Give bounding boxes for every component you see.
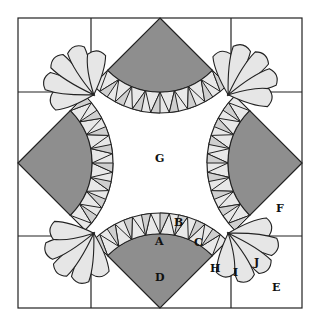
fan-left — [18, 96, 113, 230]
label-a: A — [154, 235, 164, 248]
fan-center-wedge — [18, 111, 92, 216]
label-h: H — [210, 262, 220, 275]
label-d: D — [155, 271, 165, 284]
petal-cluster-top-right — [213, 45, 277, 107]
fan-top — [93, 18, 227, 113]
fan-right — [207, 96, 302, 230]
label-j: J — [253, 256, 259, 269]
petal-cluster-bottom-right — [216, 218, 278, 282]
petal-cluster-bottom-left — [45, 221, 109, 283]
fan-center-wedge — [228, 111, 302, 216]
label-c: C — [194, 236, 203, 249]
petal-cluster-top-left — [44, 46, 106, 110]
label-i: I — [233, 266, 238, 279]
label-e: E — [272, 281, 280, 294]
fan-bottom — [93, 213, 227, 308]
label-g: G — [155, 152, 164, 165]
label-f: F — [276, 202, 284, 215]
quilt-diagram: G D A B C H I J E F — [0, 0, 321, 325]
label-b: B — [174, 216, 183, 229]
fan-center-wedge — [108, 18, 213, 92]
